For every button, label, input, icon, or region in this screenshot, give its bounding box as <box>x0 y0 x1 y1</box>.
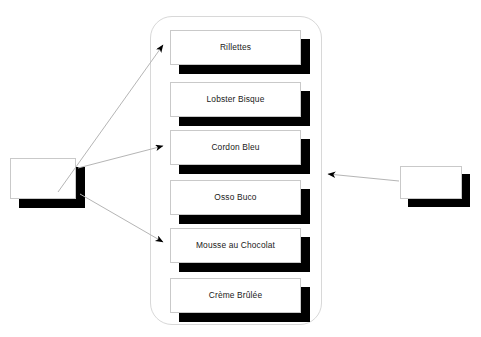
menu-item-card[interactable]: Crème Brûlée <box>170 278 301 313</box>
card-face[interactable]: Lobster Bisque <box>170 82 301 117</box>
right-actor-box[interactable] <box>400 166 462 199</box>
menu-item-card[interactable]: Rillettes <box>170 30 301 65</box>
card-label: Rillettes <box>220 43 251 51</box>
card-face[interactable]: Osso Buco <box>170 180 301 215</box>
card-label: Lobster Bisque <box>207 95 265 103</box>
card-label: Mousse au Chocolat <box>196 241 275 249</box>
card-face[interactable]: Crème Brûlée <box>170 278 301 313</box>
menu-item-card[interactable]: Osso Buco <box>170 180 301 215</box>
card-face[interactable]: Rillettes <box>170 30 301 65</box>
menu-item-card[interactable]: Mousse au Chocolat <box>170 228 301 263</box>
card-label: Crème Brûlée <box>209 291 262 299</box>
right-actor-box-face[interactable] <box>400 166 462 199</box>
card-label: Osso Buco <box>214 193 256 201</box>
left-actor-box-face[interactable] <box>10 158 76 199</box>
left-actor-box[interactable] <box>10 158 76 199</box>
card-label: Cordon Bleu <box>211 143 259 151</box>
menu-item-card[interactable]: Cordon Bleu <box>170 130 301 165</box>
connector-right-to-container <box>328 174 399 181</box>
card-face[interactable]: Cordon Bleu <box>170 130 301 165</box>
card-face[interactable]: Mousse au Chocolat <box>170 228 301 263</box>
menu-item-card[interactable]: Lobster Bisque <box>170 82 301 117</box>
diagram-canvas: Rillettes Lobster Bisque Cordon Bleu Oss… <box>0 0 481 337</box>
